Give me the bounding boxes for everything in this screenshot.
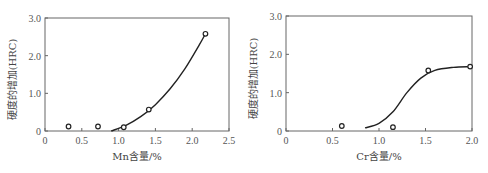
data-point-marker bbox=[468, 64, 473, 69]
data-point-marker bbox=[391, 125, 396, 130]
fit-curve bbox=[365, 67, 470, 128]
x-tick-label: 1.0 bbox=[373, 135, 386, 146]
y-tick-label: 2.0 bbox=[270, 49, 283, 60]
chart-mn: 00.51.01.52.02.501.02.03.0Mn含量/%硬度的增加(HR… bbox=[6, 13, 235, 162]
data-point-marker bbox=[146, 107, 151, 112]
x-tick-label: 2.0 bbox=[186, 135, 199, 146]
x-tick-label: 0 bbox=[284, 135, 289, 146]
plot-frame bbox=[286, 16, 472, 131]
data-point-marker bbox=[96, 124, 101, 129]
x-tick-label: 2.5 bbox=[223, 135, 236, 146]
chart-canvas: 00.51.01.52.02.501.02.03.0Mn含量/%硬度的增加(HR… bbox=[0, 0, 488, 173]
y-tick-label: 1.0 bbox=[29, 88, 42, 99]
y-tick-label: 3.0 bbox=[29, 13, 42, 24]
chart-cr: 00.51.01.52.001.02.03.0Cr含量/%硬度的增加(HRC) bbox=[247, 11, 478, 162]
x-tick-label: 0 bbox=[43, 135, 48, 146]
y-tick-label: 1.0 bbox=[270, 88, 283, 99]
x-tick-label: 1.5 bbox=[149, 135, 162, 146]
data-point-marker bbox=[203, 32, 208, 37]
y-tick-label: 2.0 bbox=[29, 51, 42, 62]
y-tick-label: 3.0 bbox=[270, 11, 283, 22]
data-point-marker bbox=[66, 124, 71, 129]
x-tick-label: 0.5 bbox=[76, 135, 89, 146]
x-tick-label: 1.0 bbox=[112, 135, 125, 146]
y-tick-label: 0 bbox=[277, 126, 282, 137]
data-point-marker bbox=[426, 68, 431, 73]
x-tick-label: 0.5 bbox=[326, 135, 339, 146]
x-axis-label: Cr含量/% bbox=[356, 150, 401, 162]
y-axis-label: 硬度的增加(HRC) bbox=[6, 39, 18, 121]
data-point-marker bbox=[121, 125, 126, 130]
y-tick-label: 0 bbox=[36, 126, 41, 137]
x-tick-label: 1.5 bbox=[419, 135, 432, 146]
x-axis-label: Mn含量/% bbox=[112, 150, 162, 162]
y-axis-label: 硬度的增加(HRC) bbox=[247, 38, 259, 120]
data-point-marker bbox=[340, 124, 345, 129]
x-tick-label: 2.0 bbox=[466, 135, 479, 146]
plot-frame bbox=[45, 18, 229, 131]
fit-curve bbox=[111, 34, 205, 131]
